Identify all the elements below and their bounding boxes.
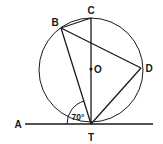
chord-bc [61, 18, 91, 28]
geometry-diagram: A T C B D O 70° [0, 0, 163, 144]
label-t: T [88, 132, 94, 143]
label-d: D [145, 63, 152, 74]
label-b: B [51, 17, 58, 28]
angle-label-70: 70° [72, 112, 85, 122]
center-point-o [89, 67, 92, 70]
label-c: C [87, 5, 94, 16]
label-o: O [94, 64, 102, 75]
chord-bt [61, 28, 91, 124]
label-a: A [14, 119, 21, 130]
